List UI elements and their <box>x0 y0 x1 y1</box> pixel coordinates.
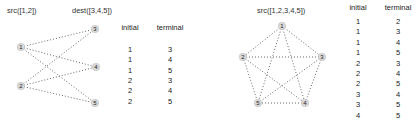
terminal-cell: 5 <box>383 48 413 57</box>
left-table-row: 13 <box>115 45 175 55</box>
terminal-cell: 5 <box>383 100 413 109</box>
terminal-cell: 5 <box>383 79 413 88</box>
left-table-row: 25 <box>115 97 175 107</box>
right-table-row: 35 <box>343 100 403 110</box>
right-edge-3-4 <box>305 57 322 103</box>
right-src-label: src([1,2,3,4,5]) <box>257 6 305 15</box>
right-edge-1-2 <box>243 26 282 57</box>
terminal-cell: 5 <box>155 66 185 75</box>
initial-cell: 4 <box>343 111 373 120</box>
right-header-terminal: terminal <box>383 3 413 12</box>
initial-cell: 3 <box>343 90 373 99</box>
left-node-2: 2 <box>17 82 25 90</box>
left-table-row: 15 <box>115 66 175 76</box>
right-edge-2-5 <box>243 57 258 103</box>
left-table-row: 14 <box>115 55 175 65</box>
right-table-row: 15 <box>343 48 403 58</box>
left-node-1: 1 <box>17 43 25 51</box>
initial-cell: 3 <box>343 100 373 109</box>
terminal-cell: 2 <box>383 17 413 26</box>
right-header-initial: initial <box>343 3 373 12</box>
right-node-2: 2 <box>239 53 247 61</box>
left-edge-1-5 <box>21 47 95 103</box>
right-table-row: 23 <box>343 59 403 69</box>
left-table-row: 23 <box>115 76 175 86</box>
terminal-cell: 4 <box>383 69 413 78</box>
initial-cell: 2 <box>343 59 373 68</box>
terminal-cell: 4 <box>383 38 413 47</box>
terminal-cell: 4 <box>155 86 185 95</box>
right-table-row: 24 <box>343 69 403 79</box>
initial-cell: 2 <box>115 76 145 85</box>
left-edge-1-4 <box>21 47 96 67</box>
right-edge-1-5 <box>258 26 282 103</box>
right-node-3: 3 <box>318 53 326 61</box>
left-header-initial: initial <box>115 23 145 32</box>
terminal-cell: 3 <box>155 76 185 85</box>
right-table-row: 14 <box>343 38 403 48</box>
left-edge-1-3 <box>21 29 95 47</box>
initial-cell: 1 <box>343 38 373 47</box>
right-edge-3-5 <box>258 57 322 103</box>
initial-cell: 2 <box>115 86 145 95</box>
terminal-cell: 3 <box>383 59 413 68</box>
initial-cell: 1 <box>343 17 373 26</box>
initial-cell: 2 <box>343 79 373 88</box>
right-node-4: 4 <box>301 99 309 107</box>
right-table-row: 25 <box>343 79 403 89</box>
right-node-5: 5 <box>254 99 262 107</box>
initial-cell: 1 <box>115 55 145 64</box>
terminal-cell: 4 <box>155 55 185 64</box>
initial-cell: 2 <box>115 97 145 106</box>
initial-cell: 2 <box>343 69 373 78</box>
left-node-5: 5 <box>91 99 99 107</box>
initial-cell: 1 <box>343 27 373 36</box>
right-edge-2-4 <box>243 57 305 103</box>
terminal-cell: 3 <box>155 45 185 54</box>
left-header-terminal: terminal <box>155 23 185 32</box>
left-node-4: 4 <box>92 63 100 71</box>
terminal-cell: 5 <box>155 97 185 106</box>
left-node-3: 3 <box>91 25 99 33</box>
terminal-cell: 4 <box>383 90 413 99</box>
terminal-cell: 3 <box>383 27 413 36</box>
right-edge-1-4 <box>282 26 305 103</box>
left-edge-2-4 <box>21 67 96 86</box>
initial-cell: 1 <box>343 48 373 57</box>
left-table-row: 24 <box>115 86 175 96</box>
initial-cell: 1 <box>115 45 145 54</box>
right-table-row: 13 <box>343 27 403 37</box>
terminal-cell: 5 <box>383 111 413 120</box>
initial-cell: 1 <box>115 66 145 75</box>
right-table-row: 34 <box>343 90 403 100</box>
left-edge-2-3 <box>21 29 95 86</box>
right-table-row: 45 <box>343 111 403 121</box>
right-node-1: 1 <box>278 22 286 30</box>
right-edge-1-3 <box>282 26 322 57</box>
right-table-row: 12 <box>343 17 403 27</box>
